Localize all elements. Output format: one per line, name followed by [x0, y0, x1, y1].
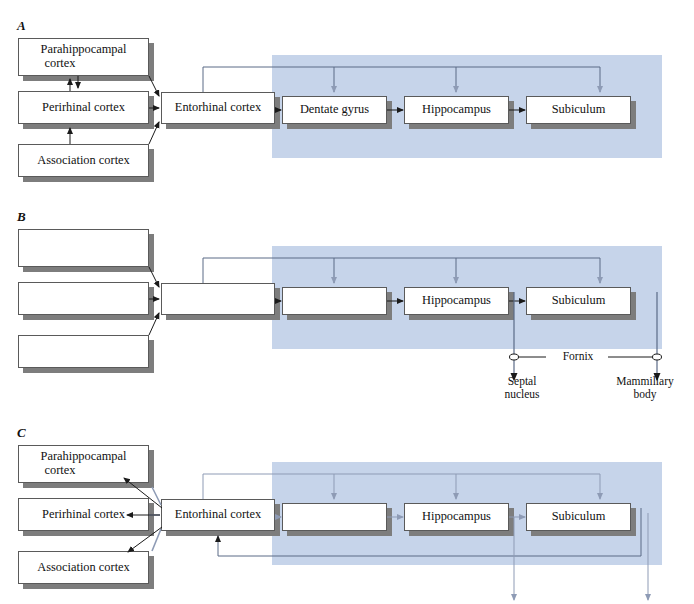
box-association-cortex: Association cortex [18, 551, 149, 584]
box-association-cortex [18, 335, 149, 368]
fornix-node-septal [510, 354, 519, 360]
box-label: Hippocampus [422, 510, 491, 524]
box-entorhinal-cortex: Entorhinal cortex [161, 92, 275, 124]
mammillary-body-label: Mammillarybody [600, 375, 690, 401]
box-label: Entorhinal cortex [175, 508, 261, 522]
box-perirhinal-cortex: Perirhinal cortex [18, 498, 149, 531]
fornix-node-mammillary [653, 354, 662, 360]
box-label: Perirhinal cortex [42, 508, 125, 522]
fornix-label: Fornix [548, 350, 608, 363]
box-label: Parahippocampalcortex [40, 450, 126, 478]
box-hippocampus: Hippocampus [404, 287, 509, 315]
box-dentate-gyrus: Dentate gyrus [282, 96, 387, 124]
box-dentate-gyrus [282, 503, 387, 531]
box-perirhinal-cortex: Perirhinal cortex [18, 91, 149, 124]
panel-a-label: A [17, 18, 26, 34]
box-label: Hippocampus [422, 103, 491, 117]
box-subiculum: Subiculum [526, 503, 631, 531]
box-entorhinal-cortex [161, 283, 275, 315]
box-parahippocampal-cortex [18, 229, 149, 267]
box-label: Dentate gyrus [300, 103, 369, 117]
box-dentate-gyrus [282, 287, 387, 315]
box-label: Subiculum [552, 294, 606, 308]
panel-c-label: C [17, 425, 26, 441]
box-hippocampus: Hippocampus [404, 503, 509, 531]
box-label: Parahippocampalcortex [40, 43, 126, 71]
box-parahippocampal-cortex: Parahippocampalcortex [18, 38, 149, 76]
box-label: Hippocampus [422, 294, 491, 308]
box-label: Entorhinal cortex [175, 101, 261, 115]
box-label: Subiculum [552, 103, 606, 117]
box-subiculum: Subiculum [526, 287, 631, 315]
box-perirhinal-cortex [18, 282, 149, 315]
box-label: Subiculum [552, 510, 606, 524]
box-label: Association cortex [37, 561, 130, 575]
panel-b-label: B [17, 209, 26, 225]
septal-nucleus-label: Septalnucleus [487, 375, 557, 401]
box-parahippocampal-cortex: Parahippocampalcortex [18, 445, 149, 483]
box-label: Perirhinal cortex [42, 101, 125, 115]
box-entorhinal-cortex: Entorhinal cortex [161, 499, 275, 531]
box-label: Association cortex [37, 154, 130, 168]
box-hippocampus: Hippocampus [404, 96, 509, 124]
box-subiculum: Subiculum [526, 96, 631, 124]
box-association-cortex: Association cortex [18, 144, 149, 177]
